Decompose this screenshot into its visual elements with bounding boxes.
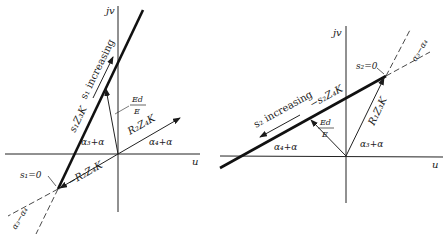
right-angle-diff: α₃−α₄ <box>410 38 430 63</box>
left-angle-diff: α₃−α₄ <box>10 206 30 231</box>
left-jv-label: jv <box>104 5 115 16</box>
left-zero-leader <box>48 176 56 186</box>
left-dashed-ext-1 <box>36 189 58 234</box>
right-vector-label: R₁Z₃K <box>365 95 389 128</box>
left-fraction: Ed E <box>115 95 146 116</box>
svg-text:Ed: Ed <box>131 95 143 104</box>
right-direction-label: s₂ increasing <box>252 88 315 130</box>
right-u-label: u <box>432 159 438 170</box>
right-jv-label: jv <box>331 27 342 38</box>
left-angle-a3: α₃+α <box>81 137 104 147</box>
left-dashed-ext-2 <box>8 189 58 216</box>
right-fraction: Ed E <box>318 118 334 139</box>
right-angle-a4: α₄+α <box>274 142 297 152</box>
phasor-diagrams: jv u s₁ increasing s₁Z₃K R₂Z₄K −R₂Z₄K s₁… <box>0 0 443 244</box>
svg-text:E: E <box>133 107 140 116</box>
left-direction-label: s₁ increasing <box>78 37 117 101</box>
left-zero-label: s₁=0 <box>20 170 42 180</box>
left-diagram: jv u s₁ increasing s₁Z₃K R₂Z₄K −R₂Z₄K s₁… <box>5 5 200 234</box>
right-thick-line-label: −s₂Z₄K <box>308 82 345 109</box>
right-u-axis <box>220 156 443 157</box>
svg-text:E: E <box>321 130 328 139</box>
svg-text:Ed: Ed <box>319 118 331 127</box>
left-u-label: u <box>192 156 198 167</box>
right-diagram: jv u s₂ increasing −s₂Z₄K R₁Z₃K s₂=0 Ed … <box>220 26 443 203</box>
right-zero-leader <box>377 68 384 74</box>
left-angle-a4: α₄+α <box>149 137 172 147</box>
right-angle-a3: α₃+α <box>360 139 383 149</box>
right-zero-label: s₂=0 <box>356 61 378 71</box>
right-thick-line <box>220 76 386 168</box>
left-ed-vector <box>106 89 118 154</box>
